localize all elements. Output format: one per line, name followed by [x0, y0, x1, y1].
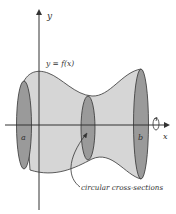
a-label: a: [21, 133, 26, 142]
y-axis-label: y: [46, 11, 53, 21]
middle-cross-section: [81, 96, 95, 160]
right-cross-section: [134, 69, 149, 179]
solid-of-revolution-diagram: y y = f(x) a b x circular cross-sections: [0, 0, 176, 214]
curve-label: y = f(x): [45, 59, 74, 68]
b-label: b: [138, 133, 143, 142]
cross-sections-annotation: circular cross-sections: [81, 183, 163, 192]
x-axis-label: x: [163, 132, 168, 141]
